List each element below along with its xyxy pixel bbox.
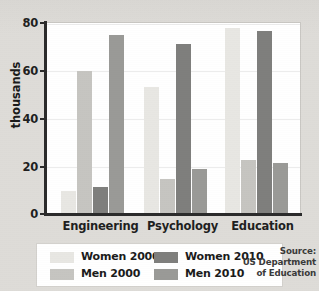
x-category-label-education: Education <box>214 219 311 233</box>
bar-psychology-men-2010 <box>192 169 207 213</box>
bar-engineering-women-2000 <box>61 191 76 213</box>
y-tick-label-0: 0 <box>0 207 38 221</box>
bar-engineering-men-2010 <box>109 35 124 213</box>
x-axis-line <box>44 213 302 216</box>
source-note: Source: US Department of Education <box>236 246 316 280</box>
legend-swatch-men-2010 <box>154 269 178 280</box>
y-tick-60 <box>40 70 45 72</box>
bar-education-men-2000 <box>241 160 256 213</box>
legend-swatch-men-2000 <box>50 269 74 280</box>
bar-group-psychology <box>144 21 214 213</box>
bar-chart-figure: 80 60 40 20 0 thousands Engineering Psyc… <box>0 0 319 291</box>
bar-psychology-women-2000 <box>144 87 159 213</box>
bar-engineering-women-2010 <box>93 187 108 213</box>
bar-psychology-men-2000 <box>160 179 175 213</box>
legend-swatch-women-2010 <box>154 252 178 263</box>
y-tick-40 <box>40 118 45 120</box>
y-tick-20 <box>40 166 45 168</box>
bar-group-education <box>225 21 295 213</box>
source-line-3: of Education <box>236 268 316 279</box>
source-line-2: US Department <box>236 257 316 268</box>
bar-group-engineering <box>61 21 131 213</box>
legend-label-men-2000: Men 2000 <box>81 267 140 280</box>
y-tick-label-80: 80 <box>0 16 38 30</box>
plot-area <box>46 22 301 214</box>
y-tick-80 <box>40 22 45 24</box>
bar-education-men-2010 <box>273 163 288 213</box>
bar-education-women-2010 <box>257 31 272 213</box>
y-axis-title: thousands <box>9 35 23 155</box>
bar-psychology-women-2010 <box>176 44 191 213</box>
source-line-1: Source: <box>236 246 316 257</box>
legend-swatch-women-2000 <box>50 252 74 263</box>
y-tick-label-20: 20 <box>0 160 38 174</box>
bar-education-women-2000 <box>225 28 240 213</box>
bar-engineering-men-2000 <box>77 71 92 213</box>
legend-label-women-2000: Women 2000 <box>81 250 160 263</box>
y-tick-0 <box>40 213 45 215</box>
